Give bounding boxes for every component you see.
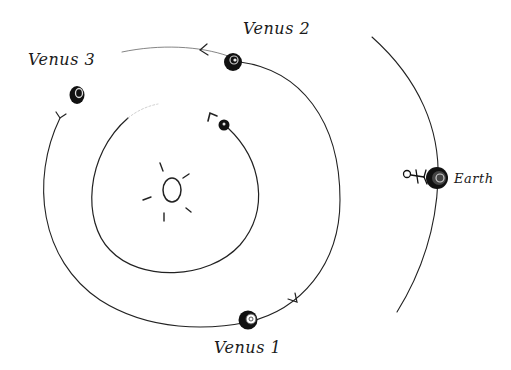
venus-3-planet [70,86,85,104]
venus-2-planet [224,53,242,71]
earth-planet [426,167,448,189]
sun-icon [163,178,181,202]
sun-ray [143,197,151,200]
arrow-venus-bottom [288,293,297,302]
sun-ray [160,163,163,171]
label-venus-3: Venus 3 [28,50,95,69]
observer-figure [404,170,428,184]
venus-orbit-left [44,118,248,327]
inner-orbit [92,118,259,273]
venus-orbit [240,62,340,322]
arrow-venus-left [56,112,66,118]
arrow-inner [208,113,217,121]
label-venus-1: Venus 1 [214,338,281,357]
venus-1-planet [239,311,258,330]
inner-orbit-faint [128,104,158,118]
sun-ray [186,208,191,212]
label-earth: Earth [454,171,494,186]
label-venus-2: Venus 2 [243,19,310,38]
sun-ray [183,174,189,178]
inner-planet [219,120,230,131]
venus-orbit-top [122,47,228,56]
